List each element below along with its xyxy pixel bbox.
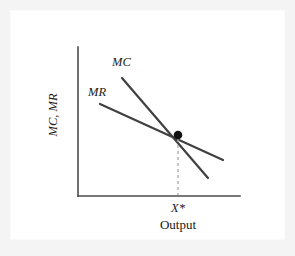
mc-curve-label: MC (111, 55, 131, 69)
mr-curve-label: MR (87, 85, 106, 99)
figure-root: MC MR MC, MR X* Output (0, 0, 295, 256)
mr-curve (100, 104, 223, 160)
x-optimum-tick-label: X* (170, 201, 186, 215)
equilibrium-point-dot (174, 131, 183, 140)
mc-curve (122, 78, 208, 178)
x-axis-title: Output (160, 217, 197, 232)
marginal-cost-revenue-chart: MC MR MC, MR X* Output (0, 0, 295, 256)
y-axis-title: MC, MR (46, 93, 60, 137)
